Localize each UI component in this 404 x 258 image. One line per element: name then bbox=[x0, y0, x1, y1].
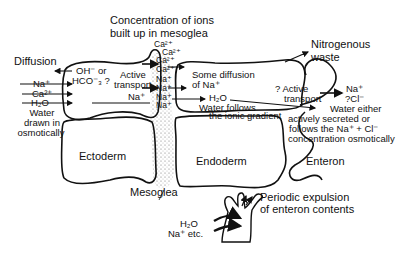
some-diffusion-2: of Na⁺ bbox=[192, 80, 220, 90]
left-active-transport-2: transport bbox=[114, 80, 152, 90]
title-line-1: Concentration of ions bbox=[110, 14, 214, 26]
water-drawn-note-3: osmotically bbox=[8, 128, 74, 138]
polyp-inset bbox=[222, 193, 262, 242]
mesoglea-label: Mesoglea bbox=[130, 186, 178, 198]
endoderm-lower-cell bbox=[175, 116, 286, 188]
meso-ion-8: Na⁺ bbox=[156, 101, 172, 110]
nitrogenous-2: waste bbox=[311, 51, 340, 63]
inset-caption-2: of enteron contents bbox=[260, 203, 354, 215]
meso-ion-4: Ca²⁺ bbox=[156, 65, 175, 74]
inset-na-etc: Na⁺ etc. bbox=[168, 229, 203, 239]
left-na-label: Na⁺ bbox=[128, 92, 145, 102]
right-active-transport-2: transport bbox=[284, 94, 322, 104]
water-follows-2: the ionic gradient bbox=[209, 111, 281, 121]
inset-caption-1: Periodic expulsion bbox=[260, 191, 349, 203]
hco3-label: HCO⁻₃ ? bbox=[72, 76, 110, 86]
endoderm-label: Endoderm bbox=[196, 155, 247, 167]
nitrogenous-1: Nitrogenous bbox=[311, 38, 370, 50]
diffusion-label: Diffusion bbox=[14, 55, 57, 67]
ectoderm-label: Ectoderm bbox=[79, 150, 126, 162]
enteron-label: Enteron bbox=[306, 155, 345, 167]
right-water-note-4: concentration osmotically bbox=[288, 134, 395, 144]
title-line-2: built up in mesoglea bbox=[110, 27, 208, 39]
